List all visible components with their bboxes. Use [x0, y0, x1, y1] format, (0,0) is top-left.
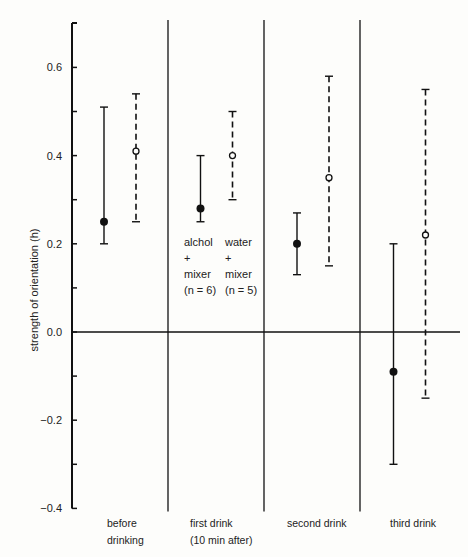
open-circle-marker — [133, 148, 139, 154]
filled-circle-marker — [100, 218, 108, 226]
labels: beforedrinkingfirst drink(10 min after)s… — [107, 236, 437, 546]
open-circle-marker — [326, 175, 332, 181]
water-mixer-errorbar — [325, 76, 333, 266]
alcohol-mixer-errorbar — [293, 213, 301, 275]
legend-annotation: alchol — [184, 236, 213, 248]
y-tick-label: −0.2 — [40, 414, 62, 426]
alcohol-mixer-errorbar — [197, 156, 205, 222]
alcohol-mixer-errorbar — [100, 107, 108, 244]
error-bars — [100, 76, 430, 464]
y-tick-label: 0.4 — [47, 150, 62, 162]
filled-circle-marker — [293, 240, 301, 248]
category-label: drinking — [107, 534, 144, 546]
y-tick-label: −0.4 — [40, 502, 62, 514]
open-circle-marker — [230, 153, 236, 159]
y-tick-label: 0.0 — [47, 326, 62, 338]
legend-annotation: + — [225, 252, 231, 264]
y-tick-label: 0.2 — [47, 238, 62, 250]
y-axis-label: strength of orientation (h) — [28, 229, 40, 352]
legend-annotation: water — [224, 236, 252, 248]
error-bar-chart: −0.4−0.20.00.20.40.6 beforedrinkingfirst… — [0, 0, 468, 557]
legend-annotation: mixer — [225, 268, 252, 280]
legend-annotation: mixer — [184, 268, 211, 280]
water-mixer-errorbar — [422, 89, 430, 398]
category-label: second drink — [287, 517, 347, 529]
filled-circle-marker — [197, 205, 205, 213]
alcohol-mixer-errorbar — [390, 244, 398, 464]
y-tick-label: 0.6 — [47, 61, 62, 73]
legend-annotation: (n = 6) — [184, 284, 216, 296]
legend-annotation: (n = 5) — [225, 284, 257, 296]
filled-circle-marker — [390, 368, 398, 376]
category-label: third drink — [390, 517, 437, 529]
water-mixer-errorbar — [229, 112, 237, 200]
water-mixer-errorbar — [132, 94, 140, 222]
category-label: first drink — [190, 517, 233, 529]
category-label: before — [107, 517, 137, 529]
open-circle-marker — [423, 232, 429, 238]
legend-annotation: + — [184, 252, 190, 264]
category-label: (10 min after) — [190, 534, 252, 546]
